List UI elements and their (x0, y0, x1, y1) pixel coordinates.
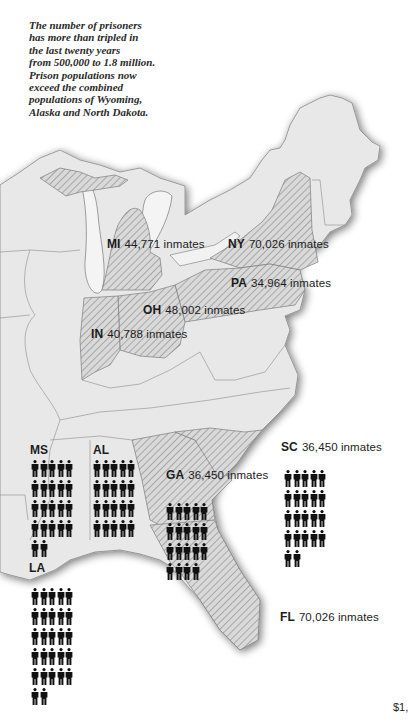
person-icon (31, 588, 39, 605)
pictogram-la (31, 588, 73, 705)
person-icon (48, 588, 56, 605)
person-icon (310, 490, 318, 507)
person-icon (40, 628, 48, 645)
person-icon (57, 520, 65, 537)
person-icon (65, 460, 73, 477)
state-abbr: MI (107, 237, 121, 251)
footer-text: $1, (393, 701, 408, 713)
person-icon (183, 503, 191, 520)
person-icon (31, 668, 39, 685)
person-icon (40, 500, 48, 517)
person-icon (65, 500, 73, 517)
person-icon (110, 500, 118, 517)
person-icon (40, 668, 48, 685)
label-oh: OH48,002 inmates (143, 303, 245, 317)
person-icon (200, 543, 208, 560)
person-icon (284, 550, 292, 567)
state-abbr: GA (166, 468, 184, 482)
person-icon (310, 510, 318, 527)
state-abbr: IN (91, 327, 103, 341)
intro-line: populations of Wyoming, (29, 93, 219, 105)
person-icon (102, 520, 110, 537)
person-icon (31, 520, 39, 537)
person-icon (119, 480, 127, 497)
person-icon (192, 503, 200, 520)
intro-line: from 500,000 to 1.8 million. (29, 56, 219, 68)
person-icon (310, 530, 318, 547)
person-icon (65, 648, 73, 665)
person-icon (65, 520, 73, 537)
person-icon (127, 460, 135, 477)
person-icon (57, 588, 65, 605)
person-icon (293, 550, 301, 567)
person-icon (166, 523, 174, 540)
person-icon (31, 688, 39, 705)
person-icon (102, 480, 110, 497)
person-icon (57, 480, 65, 497)
person-icon (293, 470, 301, 487)
person-icon (127, 480, 135, 497)
person-icon (93, 500, 101, 517)
person-icon (48, 500, 56, 517)
person-icon (57, 668, 65, 685)
state-abbr: AL (93, 443, 109, 457)
label-ga: GA36,450 inmates (166, 468, 268, 482)
inmate-count: 36,450 inmates (302, 441, 382, 453)
person-icon (48, 460, 56, 477)
person-icon (65, 628, 73, 645)
label-sc: SC36,450 inmates (281, 440, 382, 454)
person-icon (31, 648, 39, 665)
pictogram-sc (284, 470, 326, 567)
person-icon (175, 503, 183, 520)
person-icon (293, 490, 301, 507)
person-icon (284, 510, 292, 527)
person-icon (192, 563, 200, 580)
inmate-count: 44,771 inmates (125, 238, 205, 250)
person-icon (119, 460, 127, 477)
person-icon (318, 490, 326, 507)
person-icon (310, 470, 318, 487)
inmate-count: 48,002 inmates (165, 304, 245, 316)
state-abbr: PA (231, 276, 247, 290)
person-icon (48, 668, 56, 685)
person-icon (31, 480, 39, 497)
label-ms: MS (30, 443, 52, 457)
person-icon (40, 520, 48, 537)
person-icon (119, 520, 127, 537)
state-abbr: SC (281, 440, 298, 454)
person-icon (301, 490, 309, 507)
state-abbr: NY (228, 237, 245, 251)
person-icon (293, 510, 301, 527)
person-icon (65, 608, 73, 625)
person-icon (57, 500, 65, 517)
label-pa: PA34,964 inmates (231, 276, 331, 290)
person-icon (93, 520, 101, 537)
state-abbr: MS (30, 443, 48, 457)
person-icon (102, 460, 110, 477)
person-icon (200, 523, 208, 540)
person-icon (284, 490, 292, 507)
label-la: LA (29, 561, 49, 575)
person-icon (31, 608, 39, 625)
person-icon (127, 500, 135, 517)
person-icon (183, 543, 191, 560)
person-icon (318, 510, 326, 527)
intro-line: has more than tripled in (29, 31, 219, 43)
label-ny: NY70,026 inmates (228, 237, 329, 251)
person-icon (31, 628, 39, 645)
person-icon (57, 628, 65, 645)
person-icon (48, 608, 56, 625)
person-icon (65, 668, 73, 685)
person-icon (192, 523, 200, 540)
inmate-count: 36,450 inmates (188, 469, 268, 481)
person-icon (48, 520, 56, 537)
state-abbr: LA (29, 561, 45, 575)
label-fl: FL70,026 inmates (280, 610, 379, 624)
state-abbr: FL (280, 610, 295, 624)
label-al: AL (93, 443, 113, 457)
pictogram-al (93, 460, 135, 537)
intro-line: the last twenty years (29, 44, 219, 56)
person-icon (318, 470, 326, 487)
person-icon (166, 503, 174, 520)
person-icon (318, 530, 326, 547)
